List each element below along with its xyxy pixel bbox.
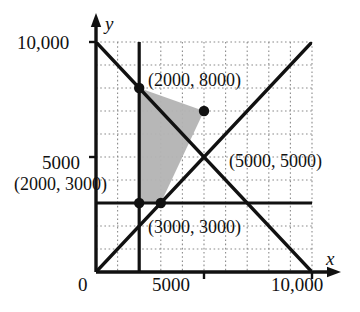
- origin-label: 0: [78, 275, 88, 294]
- point-3000-3000: [156, 198, 166, 208]
- x-axis-label-5000: 5000: [152, 275, 190, 294]
- y-axis-label-10000: 10,000: [17, 33, 69, 52]
- x-axis-label-10000: 10,000: [271, 275, 323, 294]
- point-label-5000-5000: (5000, 5000): [229, 152, 322, 170]
- point-label-2000-3000: (2000, 3000): [14, 175, 107, 193]
- point-label-3000-3000: (3000, 3000): [148, 218, 241, 236]
- point-5000-5000: [199, 106, 209, 116]
- point-2000-3000: [134, 198, 144, 208]
- y-axis-arrow: [91, 13, 101, 27]
- point-label-2000-8000: (2000, 8000): [148, 71, 241, 89]
- coordinate-graph-figure: 10,000 5000 0 5000 10,000 y x (2000, 800…: [0, 0, 360, 312]
- y-axis-label-5000: 5000: [42, 153, 80, 172]
- x-axis-name-label: x: [326, 249, 334, 268]
- point-2000-8000: [134, 83, 144, 93]
- y-axis-name-label: y: [105, 14, 113, 33]
